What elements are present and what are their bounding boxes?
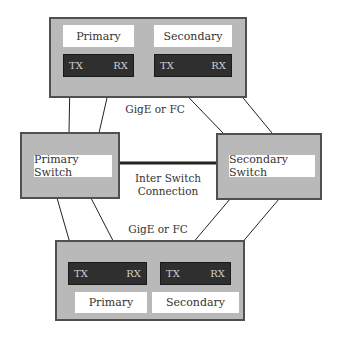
top-link-label: GigE or FC (120, 103, 190, 116)
bottom-secondary-label: Secondary (152, 292, 239, 313)
bottom-secondary-port: TX RX (160, 262, 231, 285)
primary-switch-label: Primary Switch (34, 155, 112, 177)
top-secondary-port: TX RX (154, 54, 232, 77)
inter-switch-line2: Connection (125, 185, 211, 198)
top-primary-label: Primary (63, 25, 134, 47)
bottom-primary-label: Primary (75, 292, 147, 313)
rx-label: RX (210, 268, 225, 279)
top-secondary-label: Secondary (154, 25, 232, 47)
tx-label: TX (166, 268, 180, 279)
top-primary-port: TX RX (63, 54, 134, 77)
rx-label: RX (211, 60, 226, 71)
rx-label: RX (126, 268, 141, 279)
bottom-link-label: GigE or FC (123, 223, 193, 236)
inter-switch-line1: Inter Switch (125, 172, 211, 185)
tx-label: TX (74, 268, 88, 279)
tx-label: TX (160, 60, 174, 71)
secondary-switch-label: Secondary Switch (229, 155, 315, 177)
bottom-primary-port: TX RX (68, 262, 147, 285)
rx-label: RX (113, 60, 128, 71)
inter-switch-label: Inter Switch Connection (125, 172, 211, 198)
tx-label: TX (69, 60, 83, 71)
